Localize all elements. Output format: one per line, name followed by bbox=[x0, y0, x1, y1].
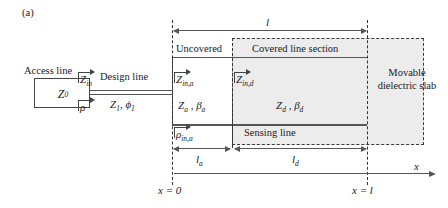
zin-label: Zin bbox=[80, 73, 92, 88]
sensing-line-body bbox=[172, 57, 367, 125]
x-origin-label: x = 0 bbox=[158, 184, 181, 196]
design-line-parameters-label: Z1, ϕ1 bbox=[110, 98, 135, 113]
movable-dielectric-slab-label: Movable dielectric slab bbox=[372, 66, 442, 92]
access-line-label: Access line bbox=[24, 66, 72, 77]
boundary-uncovered-covered bbox=[232, 38, 233, 148]
uncovered-length-label: la bbox=[196, 153, 203, 168]
total-length-label: l bbox=[266, 16, 269, 28]
covered-line-section-label: Covered line section bbox=[252, 44, 338, 55]
zin-d-label: Zin,d bbox=[236, 73, 254, 88]
x-axis-label: x bbox=[414, 160, 419, 172]
panel-label: (a) bbox=[22, 8, 34, 19]
covered-length-label: ld bbox=[292, 153, 299, 168]
covered-line-parameters-label: Zd , βd bbox=[276, 99, 303, 114]
x-end-label: x = l bbox=[352, 184, 373, 196]
sensing-line-lower-edge bbox=[172, 125, 367, 126]
total-length-dimension-line bbox=[174, 30, 366, 31]
design-line-top-conductor bbox=[90, 90, 172, 91]
rho-label: ρ bbox=[80, 101, 85, 113]
uncovered-section-label: Uncovered bbox=[176, 44, 222, 55]
design-line-bottom-conductor bbox=[90, 94, 172, 95]
design-line-label: Design line bbox=[100, 72, 148, 83]
uncovered-length-dimension-line bbox=[174, 148, 230, 149]
boundary-x-equals-l bbox=[367, 20, 368, 185]
boundary-x-zero bbox=[172, 20, 173, 185]
covered-length-dimension-line bbox=[235, 148, 366, 149]
x-axis-arrowhead bbox=[429, 171, 436, 177]
rho-in-a-label: ρin,a bbox=[176, 128, 193, 143]
transmission-line-diagram: (a) Z0 Access line Design line Uncovered… bbox=[0, 0, 448, 208]
uncovered-line-parameters-label: Za , βa bbox=[178, 99, 205, 114]
zin-a-label: Zin,a bbox=[176, 73, 194, 88]
sensing-line-label: Sensing line bbox=[244, 128, 296, 139]
x-axis bbox=[174, 173, 429, 174]
